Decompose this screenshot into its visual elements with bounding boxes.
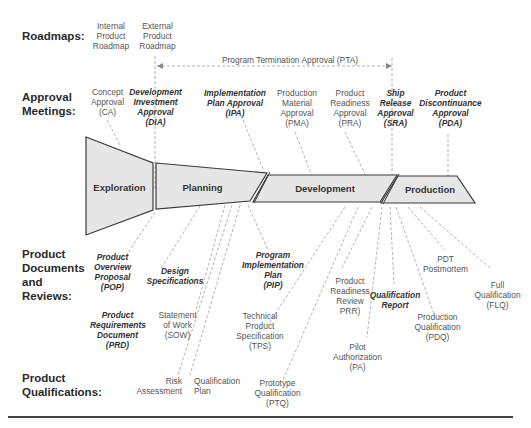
doc-design: Design Specifications	[145, 266, 205, 286]
bottom-rule	[8, 416, 513, 418]
phase-production: Production	[395, 184, 465, 195]
qual-ptq: Prototype Qualification (PTQ)	[250, 378, 305, 408]
qual-plan: Qualification Plan	[194, 376, 249, 396]
approval-dia: Development Investment Approval (DIA)	[128, 87, 183, 127]
qual-flq: Full Qualification (FLQ)	[470, 280, 525, 310]
row-label-approval: Approval Meetings:	[22, 90, 76, 118]
approval-sra: Ship Release Approval (SRA)	[373, 88, 418, 128]
external-roadmap: External Product Roadmap	[135, 21, 180, 51]
doc-prd: Product Requirements Document (PRD)	[90, 310, 145, 350]
phase-planning: Planning	[160, 182, 245, 193]
doc-qual-report: Qualification Report	[365, 290, 425, 310]
doc-pop: Product Overview Proposal (POP)	[85, 252, 140, 292]
row-label-documents: Product Documents and Reviews:	[22, 247, 85, 303]
approval-pda: Product Discontinuance Approval (PDA)	[418, 88, 483, 128]
phase-development: Development	[270, 183, 380, 194]
approval-ca: Concept Approval (CA)	[85, 87, 130, 117]
approval-pma: Production Material Approval (PMA)	[272, 88, 322, 128]
doc-pdt: PDT Postmortem	[418, 254, 473, 274]
approval-pra: Product Readiness Approval (PRA)	[325, 88, 375, 128]
qual-pdq: Production Qualification (PDQ)	[410, 312, 465, 342]
pta-label: Program Termination Approval (PTA)	[205, 55, 375, 65]
phase-exploration: Exploration	[86, 182, 153, 193]
doc-tps: Technical Product Specification (TPS)	[230, 311, 290, 351]
row-label-qualifications: Product Qualifications:	[22, 371, 102, 399]
doc-sow: Statement of Work (SOW)	[155, 310, 200, 340]
doc-pip: Program Implementation Plan (PIP)	[238, 250, 308, 290]
qual-risk: Risk Assessment	[135, 376, 182, 396]
approval-ipa: Implementation Plan Approval (IPA)	[200, 88, 270, 118]
qual-pa: Pilot Authorization (PA)	[330, 342, 385, 372]
row-label-roadmaps: Roadmaps:	[22, 29, 85, 43]
internal-roadmap: Internal Product Roadmap	[86, 21, 136, 51]
